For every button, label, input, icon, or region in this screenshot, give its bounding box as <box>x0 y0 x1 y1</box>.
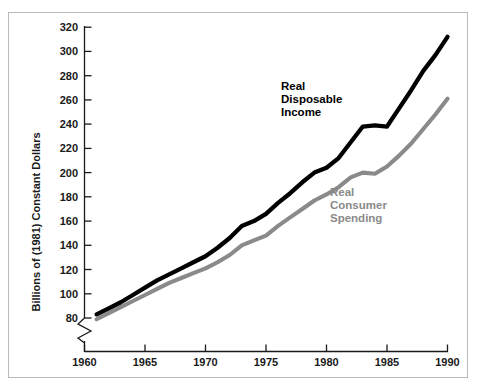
income-annot-line-1: Real <box>281 80 305 92</box>
y-axis-title: Billions of (1981) Constant Dollars <box>30 132 42 311</box>
series-line-real-disposable-income <box>97 37 448 314</box>
income-annot-line-2: Disposable <box>281 93 342 105</box>
spending-annot-line-3: Spending <box>330 212 382 224</box>
series-group <box>97 37 448 319</box>
x-tick-label-1960: 1960 <box>72 356 96 368</box>
x-tick-marks <box>85 345 448 352</box>
x-tick-label-1970: 1970 <box>193 356 217 368</box>
x-tick-labels: 1960 1965 1970 1975 1980 1985 1990 <box>72 356 459 368</box>
y-tick-label-180: 180 <box>60 191 78 203</box>
y-tick-label-280: 280 <box>60 70 78 82</box>
annotation-real-consumer-spending: Real Consumer Spending <box>330 186 387 224</box>
x-tick-label-1985: 1985 <box>375 356 399 368</box>
y-tick-marks <box>85 27 92 318</box>
axis-lines <box>78 26 448 352</box>
spending-annot-line-2: Consumer <box>330 199 387 211</box>
y-tick-label-220: 220 <box>60 142 78 154</box>
spending-annot-line-1: Real <box>330 186 354 198</box>
line-chart: 320 300 280 260 240 220 200 180 160 140 … <box>0 0 484 391</box>
x-tick-label-1965: 1965 <box>133 356 157 368</box>
y-tick-label-260: 260 <box>60 94 78 106</box>
x-tick-label-1980: 1980 <box>314 356 338 368</box>
y-tick-label-120: 120 <box>60 264 78 276</box>
x-tick-label-1990: 1990 <box>435 356 459 368</box>
y-tick-label-100: 100 <box>60 288 78 300</box>
annotation-real-disposable-income: Real Disposable Income <box>281 80 342 118</box>
y-tick-label-160: 160 <box>60 215 78 227</box>
y-tick-label-200: 200 <box>60 167 78 179</box>
y-tick-label-320: 320 <box>60 21 78 33</box>
y-tick-label-140: 140 <box>60 239 78 251</box>
figure-root: 320 300 280 260 240 220 200 180 160 140 … <box>0 0 484 391</box>
x-tick-label-1975: 1975 <box>254 356 278 368</box>
y-axis-break-zigzag <box>78 318 91 343</box>
y-tick-label-300: 300 <box>60 45 78 57</box>
y-tick-label-240: 240 <box>60 118 78 130</box>
y-tick-label-80: 80 <box>66 312 78 324</box>
income-annot-line-3: Income <box>281 106 321 118</box>
y-tick-labels: 320 300 280 260 240 220 200 180 160 140 … <box>60 21 78 324</box>
